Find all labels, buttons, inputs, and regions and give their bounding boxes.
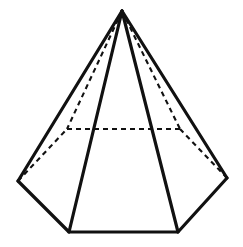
pyramid-front-faces-fill bbox=[18, 11, 227, 232]
figure-canvas bbox=[0, 0, 243, 247]
hexagonal-pyramid-drawing bbox=[0, 0, 243, 247]
